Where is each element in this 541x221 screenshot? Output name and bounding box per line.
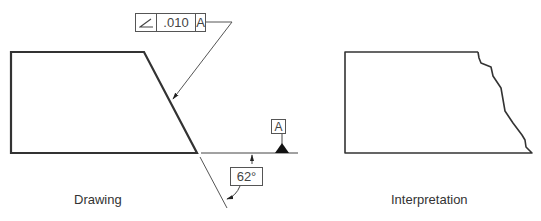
drawing-part-outline [11, 52, 197, 153]
datum-label-box: A [271, 119, 286, 134]
fcf-leader-line [173, 22, 232, 99]
angularity-icon [139, 17, 154, 28]
extension-line [200, 157, 227, 208]
angularity-symbol-cell [136, 14, 157, 31]
interpretation-part-outline [345, 52, 532, 153]
angle-dimension-box: 62° [230, 167, 263, 186]
datum-triangle-icon [275, 143, 289, 153]
datum-reference: A [196, 14, 205, 31]
interpretation-caption: Interpretation [391, 192, 468, 207]
diagram-canvas [0, 0, 541, 221]
tolerance-value: .010 [157, 14, 196, 31]
angle-arrow-curve [227, 186, 240, 199]
drawing-caption: Drawing [74, 192, 122, 207]
feature-control-frame: .010 A [135, 13, 206, 32]
